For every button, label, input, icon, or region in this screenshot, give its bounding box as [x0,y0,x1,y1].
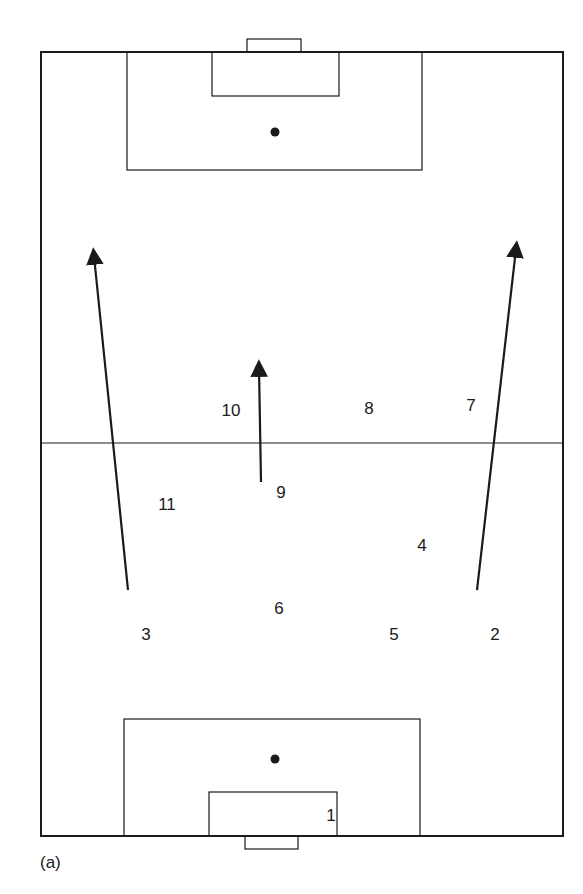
player-2: 2 [490,626,499,643]
figure-caption: (a) [40,854,61,871]
player-5: 5 [389,626,398,643]
top-goal [247,39,301,52]
top-penalty-area [127,52,422,170]
player-3: 3 [141,626,150,643]
soccer-pitch [0,0,583,894]
player-1: 1 [326,807,335,824]
player-10: 10 [222,402,241,419]
player-7: 7 [466,397,475,414]
player-4: 4 [417,537,426,554]
run-arrow-player-3 [94,256,128,590]
run-arrow-player-2 [477,249,516,590]
player-9: 9 [276,484,285,501]
player-8: 8 [364,400,373,417]
bottom-penalty-area [124,719,420,836]
top-goal-area [212,52,339,96]
bottom-goal [245,836,298,849]
player-6: 6 [274,600,283,617]
bottom-goal-area [209,792,337,836]
run-arrow-player-9 [259,368,261,482]
top-penalty-spot [271,128,280,137]
player-11: 11 [158,496,176,513]
bottom-penalty-spot [271,755,280,764]
